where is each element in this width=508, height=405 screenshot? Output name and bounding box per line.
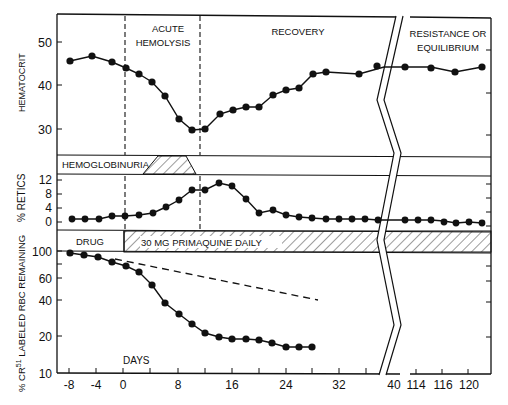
ytick-40: 40 <box>39 294 53 308</box>
figure: HEMOGLOBINURIA DRUG 30 MG PRIMAQUINE DAI… <box>0 0 508 405</box>
rbc-expected-dashed <box>115 259 318 300</box>
primaquine-label: 30 MG PRIMAQUINE DAILY <box>141 237 262 248</box>
retics-ylabel: % RETICS <box>16 173 27 222</box>
svg-text:24: 24 <box>279 378 293 392</box>
ytick-30: 30 <box>38 123 52 137</box>
svg-text:0: 0 <box>120 378 127 392</box>
svg-text:-4: -4 <box>91 378 102 392</box>
resistance-label-2: EQUILIBRIUM <box>417 42 479 53</box>
ytick-8: 8 <box>45 187 52 201</box>
svg-text:40: 40 <box>387 378 401 392</box>
svg-text:120: 120 <box>459 378 479 392</box>
svg-text:32: 32 <box>332 378 346 392</box>
retics-yaxis <box>57 180 491 226</box>
hemoglobinuria-hatch <box>143 156 196 174</box>
svg-text:16: 16 <box>225 378 239 392</box>
hematocrit-ylabel: HEMATOCRIT <box>17 53 27 112</box>
ytick-4: 4 <box>45 201 52 215</box>
svg-text:116: 116 <box>433 378 452 392</box>
ytick-40: 40 <box>38 79 52 93</box>
ytick-12: 12 <box>39 173 53 187</box>
phase-dividers <box>125 16 200 230</box>
hematocrit-series <box>66 52 485 133</box>
rbc-yaxis <box>57 251 491 337</box>
rbc-series <box>66 249 315 350</box>
ytick-0: 0 <box>45 215 52 229</box>
ytick-10: 10 <box>39 367 53 381</box>
drug-label: DRUG <box>76 236 104 247</box>
ytick-60: 60 <box>39 272 53 286</box>
hematocrit-yaxis <box>57 42 491 135</box>
svg-text:8: 8 <box>175 378 182 392</box>
recovery-label: RECOVERY <box>271 26 325 37</box>
hemoglobinuria-label: HEMOGLOBINURIA <box>62 159 150 170</box>
acute-label-1: ACUTE <box>152 23 184 34</box>
svg-text:114: 114 <box>406 378 425 392</box>
xaxis-labels: -8 -4 0 8 16 24 32 40 114 116 120 <box>64 378 480 392</box>
axis-break <box>377 16 403 375</box>
retics-series <box>69 180 486 227</box>
ytick-20: 20 <box>39 330 53 344</box>
plot-frame <box>57 14 491 374</box>
rbc-ylabel: % CR51 LABELED RBC REMAINING <box>15 235 27 392</box>
ytick-50: 50 <box>38 36 52 50</box>
ytick-100: 100 <box>32 245 52 259</box>
svg-text:-8: -8 <box>64 378 75 392</box>
acute-label-2: HEMOLYSIS <box>136 37 191 48</box>
xaxis-label-days: DAYS <box>123 355 150 366</box>
resistance-label-1: RESISTANCE OR <box>410 28 487 39</box>
